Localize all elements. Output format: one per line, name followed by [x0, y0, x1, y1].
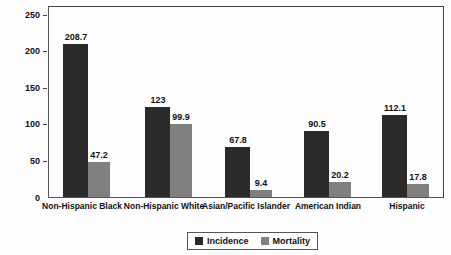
bar-value-mortality-non-hispanic-black: 47.2	[76, 151, 122, 160]
legend-swatch-mortality-icon	[261, 237, 269, 245]
bar-mortality-hispanic[interactable]	[407, 184, 429, 197]
bar-mortality-american-indian[interactable]	[329, 182, 351, 197]
bar-mortality-non-hispanic-white[interactable]	[170, 124, 192, 197]
bar-incidence-asian-pacific-islander[interactable]	[225, 147, 250, 197]
bar-value-mortality-hispanic: 17.8	[395, 173, 441, 182]
y-tick-label-100: 100	[14, 120, 40, 129]
bar-value-incidence-non-hispanic-white: 123	[135, 96, 181, 105]
bar-group-american-indian: 90.5 20.2	[304, 7, 352, 197]
legend-item-mortality[interactable]: Mortality	[261, 237, 311, 246]
y-tick-mark-250	[43, 15, 47, 16]
y-tick-label-250: 250	[14, 11, 40, 20]
bar-incidence-american-indian[interactable]	[304, 131, 329, 197]
bar-incidence-non-hispanic-black[interactable]	[63, 44, 88, 197]
bar-value-incidence-hispanic: 112.1	[372, 104, 418, 113]
x-label-non-hispanic-black: Non-Hispanic Black	[38, 202, 126, 211]
y-tick-label-200: 200	[14, 47, 40, 56]
legend-label-mortality: Mortality	[273, 237, 311, 246]
bar-group-non-hispanic-white: 123 99.9	[145, 7, 193, 197]
y-tick-label-0: 0	[14, 194, 40, 203]
chart-legend: Incidence Mortality	[187, 232, 318, 250]
x-label-asian-pacific-islander: Asian/Pacific Islander	[196, 202, 296, 211]
bar-value-mortality-asian-pacific-islander: 9.4	[238, 179, 284, 188]
bar-mortality-asian-pacific-islander[interactable]	[250, 190, 272, 197]
plot-area: 208.7 47.2 123 99.9 67.8 9.4 90.5 20.2	[48, 6, 444, 198]
legend-label-incidence: Incidence	[207, 237, 249, 246]
legend-swatch-incidence-icon	[195, 237, 203, 245]
chart-screenshot: Per 100,000 0 50 100 150 200 250 208.7 4…	[0, 0, 451, 255]
bar-value-incidence-asian-pacific-islander: 67.8	[215, 136, 261, 145]
bar-value-incidence-american-indian: 90.5	[294, 120, 340, 129]
y-tick-mark-50	[43, 161, 47, 162]
y-tick-mark-150	[43, 88, 47, 89]
y-tick-mark-200	[43, 51, 47, 52]
bar-mortality-non-hispanic-black[interactable]	[88, 162, 110, 197]
x-label-american-indian: American Indian	[283, 202, 373, 211]
y-tick-label-50: 50	[14, 157, 40, 166]
bar-group-hispanic: 112.1 17.8	[382, 7, 430, 197]
bar-value-mortality-american-indian: 20.2	[317, 171, 363, 180]
bar-group-non-hispanic-black: 208.7 47.2	[63, 7, 111, 197]
legend-item-incidence[interactable]: Incidence	[195, 237, 249, 246]
bar-value-incidence-non-hispanic-black: 208.7	[53, 33, 99, 42]
bar-value-mortality-non-hispanic-white: 99.9	[158, 113, 204, 122]
bar-incidence-hispanic[interactable]	[382, 115, 407, 197]
y-tick-label-150: 150	[14, 84, 40, 93]
bar-group-asian-pacific-islander: 67.8 9.4	[225, 7, 273, 197]
x-label-hispanic: Hispanic	[369, 202, 445, 211]
y-tick-mark-100	[43, 124, 47, 125]
